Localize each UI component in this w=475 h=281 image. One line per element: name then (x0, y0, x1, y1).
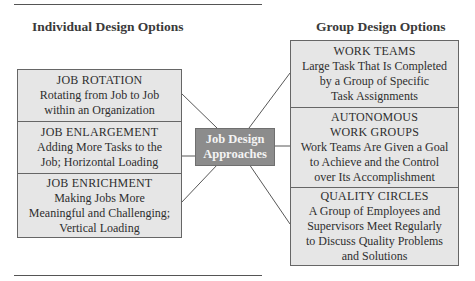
quality-circles-desc-3: to Discuss Quality Problems (291, 234, 458, 249)
work-teams-desc-1: Large Task That Is Completed (291, 59, 458, 74)
center-label-line1: Job Design (196, 132, 274, 147)
autonomous-desc-2: to Achieve and the Control (291, 155, 458, 170)
job-rotation-desc-1: Rotating from Job to Job (18, 88, 181, 103)
job-design-approaches-box: Job Design Approaches (195, 128, 275, 166)
job-rotation-desc-2: within an Organization (18, 103, 181, 118)
job-rotation-box: JOB ROTATION Rotating from Job to Job wi… (18, 70, 181, 121)
autonomous-desc-3: over Its Accomplishment (291, 170, 458, 185)
job-enlargement-desc-2: Job; Horizontal Loading (18, 155, 181, 170)
job-enrichment-title: JOB ENRICHMENT (18, 176, 181, 191)
autonomous-title: AUTONOMOUS (291, 110, 458, 125)
quality-circles-title: QUALITY CIRCLES (291, 189, 458, 204)
quality-circles-desc-4: and Solutions (291, 249, 458, 264)
job-enlargement-title: JOB ENLARGEMENT (18, 125, 181, 140)
job-enrichment-box: JOB ENRICHMENT Making Jobs More Meaningf… (18, 173, 181, 237)
work-teams-box: WORK TEAMS Large Task That Is Completed … (291, 41, 458, 107)
job-rotation-title: JOB ROTATION (18, 73, 181, 88)
work-groups-title: WORK GROUPS (291, 125, 458, 140)
work-teams-title: WORK TEAMS (291, 44, 458, 59)
job-enlargement-box: JOB ENLARGEMENT Adding More Tasks to the… (18, 121, 181, 173)
group-options-stack: WORK TEAMS Large Task That Is Completed … (290, 40, 459, 266)
autonomous-work-groups-box: AUTONOMOUS WORK GROUPS Work Teams Are Gi… (291, 107, 458, 187)
individual-options-stack: JOB ROTATION Rotating from Job to Job wi… (17, 69, 182, 238)
quality-circles-desc-2: Supervisors Meet Regularly (291, 219, 458, 234)
center-label-line2: Approaches (196, 147, 274, 162)
job-enrichment-desc-1: Making Jobs More (18, 191, 181, 206)
quality-circles-desc-1: A Group of Employees and (291, 204, 458, 219)
job-enrichment-desc-3: Vertical Loading (18, 221, 181, 236)
work-teams-desc-2: by a Group of Specific (291, 74, 458, 89)
work-teams-desc-3: Task Assignments (291, 89, 458, 104)
job-enlargement-desc-1: Adding More Tasks to the (18, 140, 181, 155)
quality-circles-box: QUALITY CIRCLES A Group of Employees and… (291, 187, 458, 264)
autonomous-desc-1: Work Teams Are Given a Goal (291, 140, 458, 155)
job-enrichment-desc-2: Meaningful and Challenging; (18, 206, 181, 221)
